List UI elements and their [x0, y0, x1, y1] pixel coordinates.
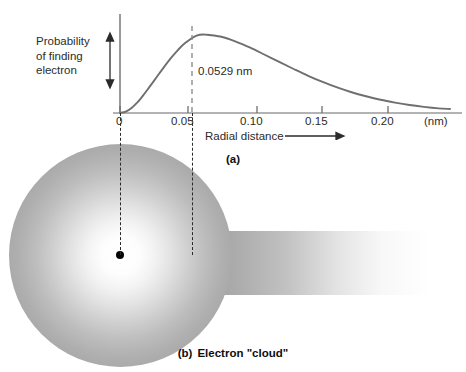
- y-axis-label-line-1: Probability: [36, 34, 114, 49]
- panel-b-caption-text: Electron "cloud": [197, 347, 288, 359]
- panel-a-caption: (a): [0, 153, 466, 165]
- x-axis-ticks: [120, 106, 388, 113]
- y-axis-label-line-3: electron: [36, 63, 114, 78]
- probability-curve: [120, 34, 450, 113]
- x-tick-label-2: 0.10: [240, 115, 263, 127]
- probability-plot-panel: Probability of finding electron 0 0.05 0…: [0, 0, 466, 140]
- x-axis-label: Radial distance: [205, 130, 284, 142]
- electron-probability-cloud: [9, 144, 232, 367]
- panel-b-caption-tag: (b): [178, 347, 193, 359]
- radial-distance-arrow-icon: [285, 132, 344, 139]
- x-tick-label-3: 0.15: [305, 115, 328, 127]
- nucleus-dot: [116, 251, 124, 259]
- probability-tail-band: [120, 231, 440, 295]
- bohr-radius-annotation-label: 0.0529 nm: [198, 65, 252, 77]
- x-tick-label-4: 0.20: [371, 115, 394, 127]
- figure-electron-cloud: Probability of finding electron 0 0.05 0…: [0, 0, 466, 372]
- panel-b-caption: (b)Electron "cloud": [0, 347, 466, 359]
- y-axis-label: Probability of finding electron: [36, 34, 114, 78]
- x-axis-unit-label: (nm): [424, 115, 448, 127]
- x-tick-label-0: 0: [116, 115, 123, 127]
- x-tick-label-1: 0.05: [171, 115, 194, 127]
- y-axis-label-line-2: of finding: [36, 49, 114, 64]
